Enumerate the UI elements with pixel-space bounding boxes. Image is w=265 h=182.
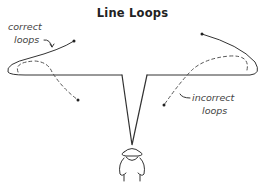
left-rod-tip-dot [73,40,76,43]
right-rod-tip-dot [201,33,204,36]
rod-lines [122,75,147,145]
angler-figure-icon [120,149,145,182]
line-loops-figure [0,0,265,182]
left-loop-line [8,41,122,75]
right-dash-end-dot [163,104,166,107]
right-dashed-trajectory [164,56,247,105]
right-loop-line [147,34,258,75]
left-dash-end-dot [77,99,80,102]
incorrect-pointer-arrow [180,94,190,98]
left-dashed-trajectory [17,61,78,100]
